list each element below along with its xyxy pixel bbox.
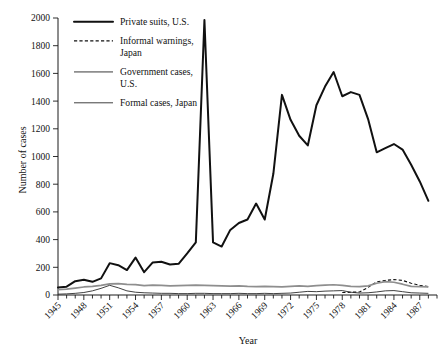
x-tick-label: 1951 <box>94 300 115 321</box>
y-tick-label: 0 <box>45 290 50 300</box>
legend-label-2: Government cases, <box>120 66 193 77</box>
axes <box>58 18 437 295</box>
x-tick-label: 1957 <box>146 300 167 321</box>
legend-label-0: Private suits, U.S. <box>120 16 189 27</box>
x-tick-label: 1954 <box>120 300 141 321</box>
line-chart-canvas: 0200400600800100012001400160018002000 19… <box>0 0 448 356</box>
x-tick-label: 1972 <box>275 300 296 321</box>
x-axis-ticks: 1945194819511954195719601963196619691972… <box>42 295 437 321</box>
y-tick-label: 1800 <box>31 41 50 51</box>
data-series <box>58 20 428 294</box>
x-tick-label: 1969 <box>249 300 270 321</box>
x-tick-label: 1966 <box>223 300 244 321</box>
y-axis-ticks: 0200400600800100012001400160018002000 <box>31 13 58 300</box>
x-tick-label: 1987 <box>404 300 425 321</box>
y-tick-label: 1600 <box>31 69 50 79</box>
y-tick-label: 1200 <box>31 124 50 134</box>
x-tick-label: 1978 <box>327 300 348 321</box>
x-tick-label: 1981 <box>352 300 373 321</box>
y-tick-label: 1400 <box>31 97 50 107</box>
x-tick-label: 1945 <box>42 300 63 321</box>
chart-legend: Private suits, U.S.Informal warnings,Jap… <box>74 16 197 108</box>
x-tick-label: 1963 <box>197 300 218 321</box>
legend-label-3: Formal cases, Japan <box>120 97 197 108</box>
y-tick-label: 800 <box>36 180 51 190</box>
x-axis-title: Year <box>239 335 258 346</box>
y-tick-label: 1000 <box>31 152 50 162</box>
x-tick-label: 1984 <box>378 300 399 321</box>
axis-spines <box>58 18 437 295</box>
y-tick-label: 600 <box>36 207 51 217</box>
x-tick-label: 1948 <box>68 300 89 321</box>
y-axis-title: Number of cases <box>17 126 28 193</box>
legend-label-1-cont: Japan <box>120 47 142 58</box>
legend-label-1: Informal warnings, <box>120 35 194 46</box>
series-line-government-cases-u-s <box>58 282 428 290</box>
legend-label-2-cont: U.S. <box>120 78 137 89</box>
y-tick-label: 200 <box>36 263 51 273</box>
x-tick-label: 1975 <box>301 300 322 321</box>
y-tick-label: 2000 <box>31 13 50 23</box>
chart-figure: 0200400600800100012001400160018002000 19… <box>0 0 448 356</box>
x-tick-label: 1960 <box>172 300 193 321</box>
y-tick-label: 400 <box>36 235 51 245</box>
series-line-private-suits-u-s <box>58 20 428 287</box>
